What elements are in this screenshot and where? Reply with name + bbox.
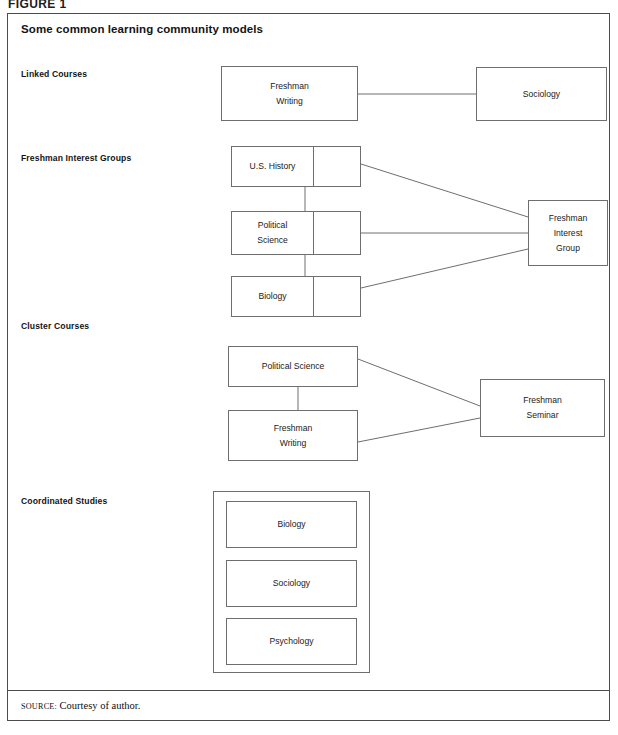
source-note: SOURCE: Courtesy of author. [21,700,140,711]
node-line-2: Writing [280,436,307,451]
section-label-linked-courses: Linked Courses [21,69,87,79]
node-line-1: Freshman [523,393,562,408]
node-line-1: Sociology [523,87,560,102]
figure-number-label: FIGURE 1 [8,0,67,9]
footer-divider [8,690,609,691]
node-line-2: Science [257,233,288,248]
node-political-science-cluster[interactable]: Political Science [228,346,358,387]
node-line-1: Political [258,218,288,233]
node-line-1: U.S. History [250,159,296,174]
source-prefix: SOURCE: [21,702,57,711]
node-divider [313,147,314,186]
node-biology-coordinated[interactable]: Biology [226,501,357,548]
figure-title: Some common learning community models [21,23,263,35]
node-sociology-linked[interactable]: Sociology [476,67,607,121]
section-label-coordinated-studies: Coordinated Studies [21,496,107,506]
node-freshman-seminar[interactable]: Freshman Seminar [480,379,605,437]
node-line-1: Freshman [270,79,309,94]
node-divider [313,277,314,316]
node-sociology-coordinated[interactable]: Sociology [226,560,357,607]
node-line-1: Freshman [274,421,313,436]
source-text: Courtesy of author. [60,700,141,711]
node-line-2: Interest [554,226,583,241]
node-line-2: Seminar [527,408,559,423]
node-line-1: Psychology [270,634,314,649]
section-label-freshman-interest-groups: Freshman Interest Groups [21,153,131,163]
section-label-cluster-courses: Cluster Courses [21,321,89,331]
node-line-1: Freshman [549,211,588,226]
node-line-3: Group [556,241,580,256]
node-line-1: Biology [277,517,305,532]
node-freshman-writing-cluster[interactable]: Freshman Writing [228,410,358,461]
node-line-1: Biology [258,289,286,304]
node-biology-fig[interactable]: Biology [231,276,361,317]
figure-frame: Some common learning community models Li… [7,13,610,721]
node-line-1: Political Science [262,359,325,374]
node-psychology-coordinated[interactable]: Psychology [226,618,357,665]
node-line-1: Sociology [273,576,310,591]
node-freshman-writing-linked[interactable]: Freshman Writing [221,66,358,121]
node-political-science-fig[interactable]: Political Science [231,211,361,255]
node-divider [313,212,314,254]
node-line-2: Writing [276,94,303,109]
node-freshman-interest-group[interactable]: Freshman Interest Group [528,200,608,266]
node-us-history[interactable]: U.S. History [231,146,361,187]
